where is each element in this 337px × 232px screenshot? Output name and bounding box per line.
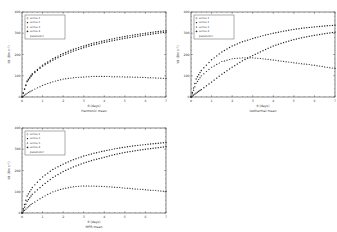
legend-entry: series 3 [30,142,41,145]
chart-panel-harmonic: 012345670100200300400θ (days)Harmonic me… [0,0,168,116]
y-tick-label: 0 [18,211,20,215]
x-tick-label: 5 [293,99,295,103]
chart-subtitle: Isothermal mean [249,109,276,113]
y-tick-label: 300 [183,31,189,35]
legend-entry: series 2 [30,137,41,140]
series-1 [21,30,166,98]
legend-entry: series 4 [199,30,210,33]
y-axis-label: Vd (Bm s⁻¹) [7,161,11,180]
y-tick-label: 300 [14,31,20,35]
x-tick-label: 5 [124,215,126,219]
chart-svg: 012345670100200300400θ (days)MPR meanVd … [0,116,168,232]
x-tick-label: 6 [144,215,146,219]
y-tick-label: 100 [14,190,20,194]
legend-entry: parameter [30,151,45,154]
y-tick-label: 200 [183,53,189,57]
legend-entry: series 2 [199,21,210,24]
chart-subtitle: MPR mean [86,225,103,229]
chart-panel-isothermal: 012345670100200300400θ (days)Isothermal … [169,0,337,116]
legend-entry: series 3 [199,26,210,29]
x-tick-label: 0 [190,99,192,103]
y-tick-label: 400 [14,10,20,14]
legend-entry: series 4 [30,146,41,149]
x-tick-label: 7 [165,215,167,219]
x-tick-label: 0 [21,215,23,219]
legend: series 1series 2series 3series 4paramete… [25,15,65,39]
x-tick-label: 6 [313,99,315,103]
y-tick-label: 400 [14,126,20,130]
x-axis-label: θ (days) [257,104,270,108]
y-tick-label: 200 [14,53,20,57]
chart-subtitle: Harmonic mean [81,109,106,113]
x-tick-label: 6 [144,99,146,103]
series-3 [21,185,167,214]
legend: series 1series 2series 3series 4paramete… [194,15,234,39]
legend-entry: series 4 [30,30,41,33]
y-axis-label: Vd (Bm s⁻¹) [176,45,180,64]
x-tick-label: 4 [103,99,105,103]
legend: series 1series 2series 3series 4paramete… [25,131,65,155]
y-tick-label: 0 [18,95,20,99]
x-tick-label: 2 [231,99,233,103]
x-tick-label: 1 [42,99,44,103]
y-tick-label: 200 [14,169,20,173]
y-tick-label: 400 [183,10,189,14]
x-axis-label: θ (days) [88,104,101,108]
x-tick-label: 4 [103,215,105,219]
x-axis-label: θ (days) [88,220,101,224]
x-tick-label: 7 [165,99,167,103]
x-tick-label: 7 [334,99,336,103]
chart-svg: 012345670100200300400θ (days)Harmonic me… [0,0,168,116]
y-tick-label: 100 [183,74,189,78]
y-tick-label: 300 [14,147,20,151]
series-2 [21,146,166,214]
x-tick-label: 1 [211,99,213,103]
y-tick-label: 0 [187,95,189,99]
legend-entry: series 1 [30,17,41,20]
x-tick-label: 4 [272,99,274,103]
legend-entry: series 3 [30,26,41,29]
x-tick-label: 3 [252,99,254,103]
series-2 [190,32,335,98]
legend-entry: series 2 [30,21,41,24]
series-3 [21,76,167,98]
x-tick-label: 1 [42,215,44,219]
series-3 [190,57,336,98]
series-2 [21,32,166,98]
y-tick-label: 100 [14,74,20,78]
x-tick-label: 2 [62,215,64,219]
legend-entry: series 1 [30,133,41,136]
x-tick-label: 5 [124,99,126,103]
x-tick-label: 3 [83,215,85,219]
x-tick-label: 3 [83,99,85,103]
legend-entry: parameter [199,35,214,38]
chart-svg: 012345670100200300400θ (days)Isothermal … [169,0,337,116]
y-axis-label: Vd (Bm s⁻¹) [7,45,11,64]
x-tick-label: 2 [62,99,64,103]
chart-panel-mpr: 012345670100200300400θ (days)MPR meanVd … [0,116,168,232]
x-tick-label: 0 [21,99,23,103]
legend-entry: series 1 [199,17,210,20]
legend-entry: parameter [30,35,45,38]
